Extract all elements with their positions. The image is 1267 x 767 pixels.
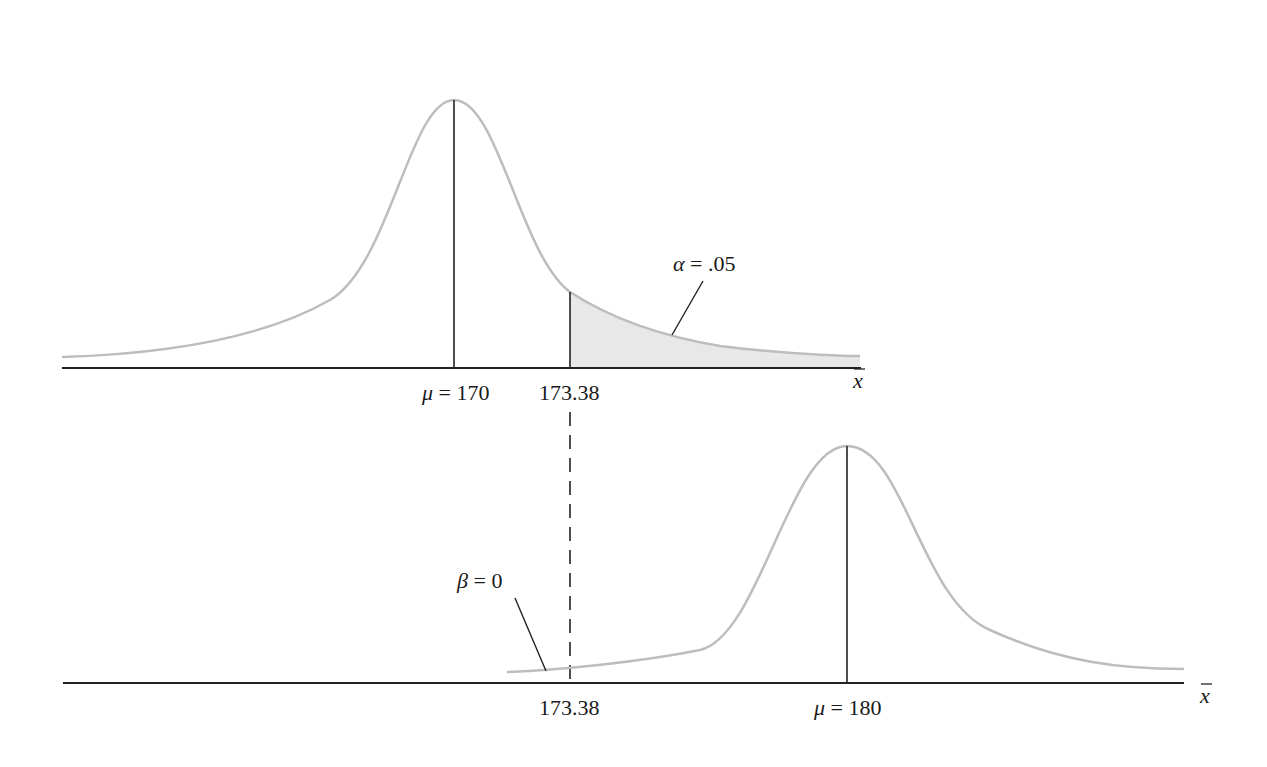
critical-value-label-bottom: 173.38	[539, 695, 600, 720]
bottom-panel: β = 0 173.38 μ = 180 x	[63, 446, 1212, 720]
beta-pointer	[515, 598, 546, 671]
top-panel: α = .05 μ = 170 173.38 x	[62, 100, 865, 405]
alpha-label: α = .05	[673, 251, 735, 276]
hypothesis-test-diagram: α = .05 μ = 170 173.38 x β = 0 173.38 μ …	[0, 0, 1267, 767]
alternative-mean-label: μ = 180	[813, 695, 881, 720]
x-bar-label-bottom: x	[1199, 683, 1210, 708]
critical-value-label-top: 173.38	[539, 380, 600, 405]
null-distribution-curve	[62, 100, 860, 357]
alpha-shaded-region	[570, 292, 860, 368]
alternative-distribution-curve	[507, 446, 1184, 672]
alpha-pointer	[672, 281, 703, 335]
null-mean-label: μ = 170	[421, 380, 489, 405]
x-bar-label-top: x	[852, 368, 863, 393]
beta-label: β = 0	[456, 568, 502, 593]
